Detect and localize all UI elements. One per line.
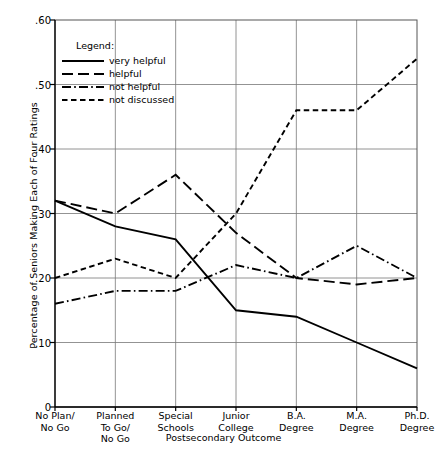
x-axis-label: Postsecondary Outcome: [0, 432, 447, 443]
chart-figure: 0.10.20.30.40.50.60 Percentage of Senior…: [0, 0, 447, 451]
legend-line-swatch: [62, 94, 104, 106]
legend-label: helpful: [109, 68, 142, 79]
legend-line-swatch: [62, 68, 104, 80]
y-tick-label: .50: [5, 79, 51, 90]
legend-entry: helpful: [62, 67, 194, 80]
y-tick-label: .60: [5, 15, 51, 26]
legend-label: very helpful: [109, 55, 166, 66]
legend-line-swatch: [62, 81, 104, 93]
y-tick-label: .30: [5, 208, 51, 219]
legend-line-swatch: [62, 55, 104, 67]
x-axis-ticks: No Plan/No GoPlannedTo Go/No GoSpecialSc…: [0, 410, 447, 451]
legend-entry: very helpful: [62, 54, 194, 67]
y-tick-label: .10: [5, 337, 51, 348]
y-axis-ticks: 0.10.20.30.40.50.60: [0, 0, 51, 451]
legend-entry: not discussed: [62, 93, 194, 106]
legend-label: not discussed: [109, 94, 174, 105]
y-tick-label: .20: [5, 273, 51, 284]
chart-legend: Legend: very helpfulhelpfulnot helpfulno…: [62, 40, 194, 106]
y-tick-label: .40: [5, 144, 51, 155]
x-tick-label: Ph.D.Degree: [375, 410, 447, 433]
legend-label: not helpful: [109, 81, 160, 92]
legend-title: Legend:: [76, 40, 194, 51]
legend-entry: not helpful: [62, 80, 194, 93]
x-tick-label-line: Ph.D.: [375, 410, 447, 422]
legend-entries: very helpfulhelpfulnot helpfulnot discus…: [62, 54, 194, 106]
